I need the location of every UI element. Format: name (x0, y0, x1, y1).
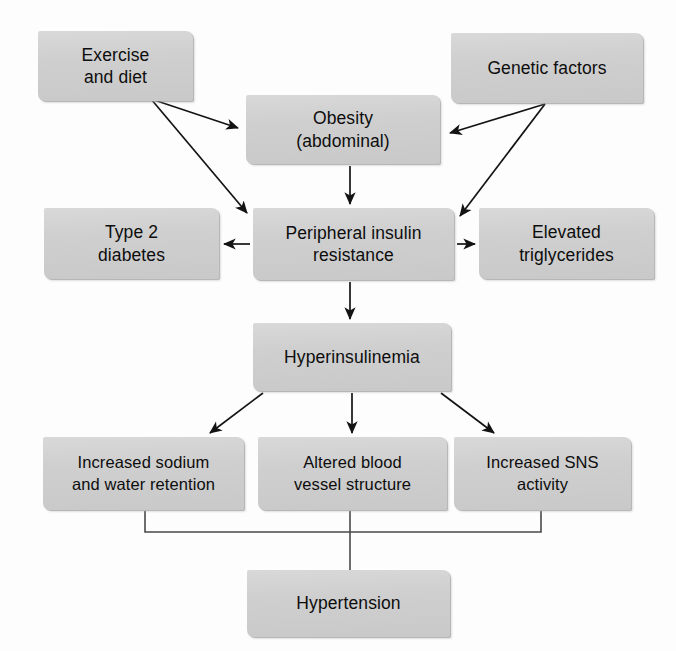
node-label: Increased sodium and water retention (66, 452, 221, 494)
edge-hyperinsulinemia-to-sns (441, 393, 494, 433)
node-elevated-triglycerides[interactable]: Elevated triglycerides (479, 208, 654, 279)
node-label: Hyperinsulinemia (278, 346, 426, 368)
node-type-2-diabetes[interactable]: Type 2 diabetes (44, 208, 219, 279)
flowchart-canvas: Exercise and diet Genetic factors Obesit… (0, 0, 676, 651)
edge-exercise-to-insulin-resistance (151, 99, 247, 213)
node-label: Genetic factors (481, 57, 612, 79)
node-obesity-abdominal[interactable]: Obesity (abdominal) (246, 95, 440, 164)
node-hyperinsulinemia[interactable]: Hyperinsulinemia (253, 323, 451, 391)
node-increased-sns-activity[interactable]: Increased SNS activity (454, 437, 631, 510)
node-label: Elevated triglycerides (513, 221, 620, 266)
node-label: Hypertension (290, 592, 406, 614)
node-genetic-factors[interactable]: Genetic factors (451, 33, 643, 103)
node-label: Increased SNS activity (480, 452, 604, 494)
node-hypertension[interactable]: Hypertension (247, 570, 450, 637)
node-label: Exercise and diet (76, 44, 156, 89)
edge-genetic-to-insulin-resistance (460, 104, 545, 216)
edge-bracket-to-hypertension (145, 511, 541, 570)
node-label: Altered blood vessel structure (288, 452, 417, 494)
edge-hyperinsulinemia-to-sodium (210, 393, 263, 433)
edge-genetic-to-obesity (450, 104, 545, 133)
node-label: Type 2 diabetes (92, 221, 171, 266)
node-label: Peripheral insulin resistance (279, 222, 427, 267)
node-altered-blood-vessel-structure[interactable]: Altered blood vessel structure (258, 437, 447, 510)
node-peripheral-insulin-resistance[interactable]: Peripheral insulin resistance (253, 208, 454, 280)
node-exercise-and-diet[interactable]: Exercise and diet (38, 31, 193, 101)
node-label: Obesity (abdominal) (290, 107, 396, 152)
node-increased-sodium-water-retention[interactable]: Increased sodium and water retention (43, 437, 244, 510)
edge-exercise-to-obesity (151, 99, 238, 128)
